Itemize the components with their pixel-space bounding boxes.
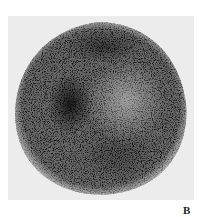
scan-panel [8,16,194,200]
scintigraphy-image [8,16,194,200]
panel-label: B [183,204,190,216]
